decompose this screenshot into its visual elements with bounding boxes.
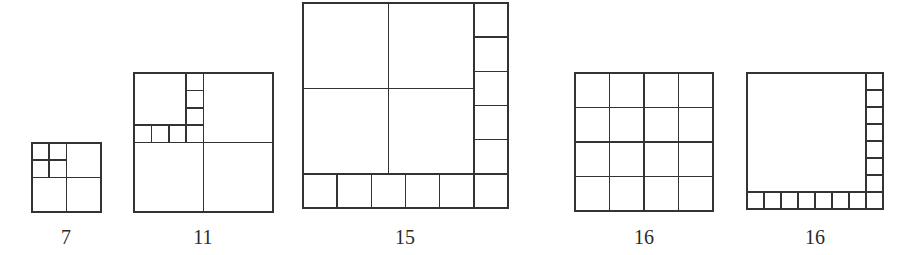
- square-cell: [866, 192, 883, 209]
- square-cell: [798, 192, 815, 209]
- square-cell: [866, 90, 883, 107]
- square-cell: [866, 107, 883, 124]
- square-cell: [134, 73, 186, 125]
- square-cell: [644, 177, 679, 212]
- square-cell: [610, 73, 645, 108]
- square-cell: [32, 143, 49, 160]
- square-cell: [474, 174, 508, 208]
- square-cell: [49, 143, 66, 160]
- square-cell: [747, 73, 883, 209]
- square-cell: [474, 3, 508, 37]
- square-cell: [575, 73, 610, 108]
- square-cell: [679, 142, 714, 177]
- figure-11-squares: [134, 73, 273, 212]
- square-cell: [610, 142, 645, 177]
- square-cell: [186, 108, 203, 125]
- figure-15-squares: [303, 3, 508, 208]
- square-dissection-diagram: [0, 0, 906, 255]
- square-cell: [866, 141, 883, 158]
- square-cell: [474, 37, 508, 71]
- square-cell: [474, 71, 508, 105]
- square-cell: [747, 73, 866, 192]
- square-cell: [679, 108, 714, 143]
- square-cell: [644, 73, 679, 108]
- square-cell: [781, 192, 798, 209]
- square-cell: [186, 73, 203, 90]
- square-cell: [169, 125, 186, 142]
- square-cell: [815, 192, 832, 209]
- square-cell: [49, 160, 66, 177]
- square-cell: [747, 192, 764, 209]
- figure-label-16-lshape: 16: [775, 226, 855, 248]
- square-cell: [32, 178, 67, 213]
- square-cell: [440, 174, 474, 208]
- square-cell: [474, 106, 508, 140]
- square-cell: [371, 174, 405, 208]
- figure-label-16-grid: 16: [604, 226, 684, 248]
- square-cell: [303, 88, 388, 173]
- square-cell: [204, 73, 274, 143]
- square-cell: [764, 192, 781, 209]
- square-cell: [849, 192, 866, 209]
- figure-16-grid: [575, 73, 713, 211]
- square-cell: [186, 90, 203, 107]
- square-cell: [406, 174, 440, 208]
- square-cell: [575, 108, 610, 143]
- square-cell: [644, 108, 679, 143]
- square-cell: [151, 125, 168, 142]
- square-cell: [303, 174, 337, 208]
- figure-16-lshape: [747, 73, 883, 209]
- square-cell: [679, 177, 714, 212]
- square-cell: [186, 125, 203, 142]
- square-cell: [866, 124, 883, 141]
- square-cell: [679, 73, 714, 108]
- square-cell: [303, 3, 388, 88]
- square-cell: [866, 73, 883, 90]
- square-cell: [644, 142, 679, 177]
- square-cell: [575, 142, 610, 177]
- square-cell: [866, 175, 883, 192]
- square-cell: [134, 143, 204, 213]
- square-cell: [67, 143, 102, 178]
- square-cell: [866, 158, 883, 175]
- square-cell: [388, 88, 473, 173]
- square-cell: [832, 192, 849, 209]
- figure-label-7: 7: [26, 226, 106, 248]
- square-cell: [67, 178, 102, 213]
- square-cell: [204, 143, 274, 213]
- figures-layer: [32, 3, 883, 212]
- figure-label-11: 11: [163, 226, 243, 248]
- square-cell: [575, 177, 610, 212]
- square-cell: [388, 3, 473, 88]
- figure-label-15: 15: [365, 226, 445, 248]
- square-cell: [474, 140, 508, 174]
- square-cell: [337, 174, 371, 208]
- square-cell: [134, 125, 151, 142]
- square-cell: [610, 108, 645, 143]
- square-cell: [610, 177, 645, 212]
- square-cell: [32, 160, 49, 177]
- figure-7-squares: [32, 143, 101, 212]
